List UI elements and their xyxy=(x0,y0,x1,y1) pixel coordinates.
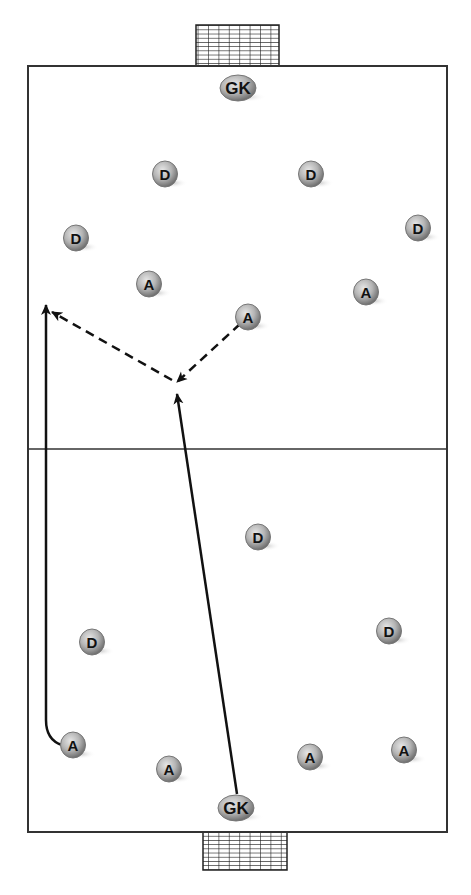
player-label: A xyxy=(243,309,254,326)
defender-token: D xyxy=(64,225,99,252)
pitch xyxy=(28,66,447,832)
run-arrow xyxy=(177,394,237,794)
player-label: A xyxy=(305,749,316,766)
player-label: A xyxy=(361,284,372,301)
attacker-token: A xyxy=(298,744,333,771)
movement-lines xyxy=(46,305,240,794)
bottom-goal xyxy=(203,832,287,870)
player-label: A xyxy=(144,276,155,293)
defender-token: D xyxy=(299,161,334,188)
defender-token: D xyxy=(80,629,115,656)
goalkeeper-token: GK xyxy=(218,795,264,822)
run-arrow xyxy=(46,305,62,745)
player-label: A xyxy=(399,742,410,759)
attacker-token: A xyxy=(236,304,271,331)
attacker-token: A xyxy=(137,271,172,298)
attacker-token: A xyxy=(354,279,389,306)
defender-token: D xyxy=(377,618,412,645)
attacker-token: A xyxy=(392,737,427,764)
defender-token: D xyxy=(406,215,441,242)
attacker-token: A xyxy=(157,756,192,783)
player-label: GK xyxy=(223,799,249,818)
goalkeeper-token: GK xyxy=(220,75,266,102)
player-label: GK xyxy=(225,79,251,98)
player-label: A xyxy=(68,737,79,754)
player-label: A xyxy=(164,761,175,778)
player-label: D xyxy=(71,230,82,247)
attacker-token: A xyxy=(61,732,96,759)
player-label: D xyxy=(253,529,264,546)
defender-token: D xyxy=(246,524,281,551)
player-label: D xyxy=(160,166,171,183)
player-label: D xyxy=(413,220,424,237)
top-goal xyxy=(196,25,279,66)
defender-token: D xyxy=(153,161,188,188)
pitch-diagram: GKDDDDAAADDDAAAAGK xyxy=(0,0,471,895)
player-label: D xyxy=(87,634,98,651)
pass-arrow xyxy=(177,324,240,382)
player-label: D xyxy=(306,166,317,183)
player-label: D xyxy=(384,623,395,640)
goals xyxy=(196,25,287,870)
pass-arrow xyxy=(52,312,172,380)
